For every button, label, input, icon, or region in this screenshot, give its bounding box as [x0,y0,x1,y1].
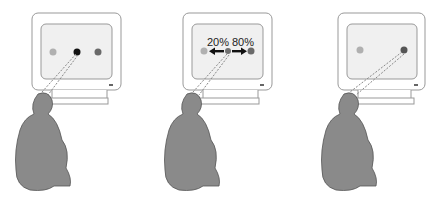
right-probability-label: 80% [232,36,254,48]
right-dot [95,49,102,56]
center-dot [74,49,81,56]
center-dot [225,48,231,54]
monitor-monkey-illustration [147,0,294,202]
left-probability-label: 20% [207,36,229,48]
left-dot [50,49,57,56]
monkey-silhouette [16,93,71,191]
monitor [32,13,121,104]
panel-fixation [0,0,147,202]
monitor-monkey-illustration [0,0,147,202]
monkey-silhouette [165,93,220,191]
monkey-silhouette [322,93,377,191]
panel-saccade [294,0,441,202]
panel-choice: 20% 80% [147,0,294,202]
left-dot [357,47,364,54]
right-dot [248,48,255,55]
monitor [183,13,272,104]
left-dot [201,48,208,55]
monitor [338,13,425,104]
monitor-monkey-illustration [294,0,441,202]
